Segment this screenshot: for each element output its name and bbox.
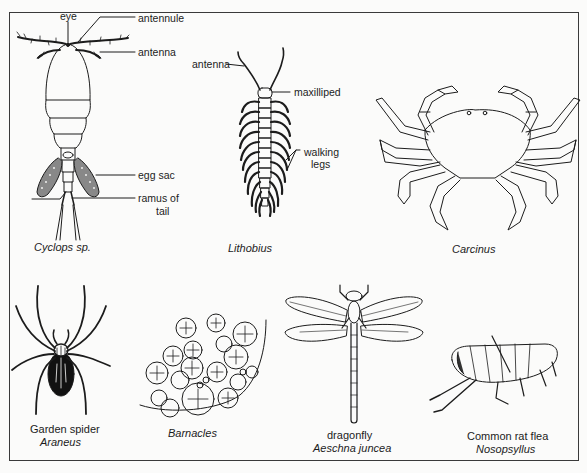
label-walking: walking	[304, 146, 339, 158]
label-eye: eye	[60, 10, 77, 22]
label-maxilliped: maxilliped	[294, 86, 341, 98]
caption-araneus: Araneus	[40, 436, 81, 449]
label-tail: tail	[156, 205, 169, 217]
label-antennule: antennule	[138, 12, 184, 24]
label-antenna: antenna	[138, 46, 176, 58]
caption-aeschna-juncea: Aeschna juncea	[313, 442, 391, 455]
lithobius-drawing	[226, 48, 300, 216]
cyclops-drawing	[17, 17, 135, 240]
illustration-canvas	[0, 0, 587, 473]
caption-barnacles: Barnacles	[168, 427, 217, 440]
caption-lithobius: Lithobius	[228, 242, 272, 255]
garden-spider-drawing	[12, 286, 110, 414]
dragonfly-drawing	[285, 285, 423, 423]
label-egg-sac: egg sac	[138, 169, 175, 181]
common-name-dragonfly: dragonfly	[327, 429, 372, 442]
caption-carcinus: Carcinus	[452, 243, 495, 256]
carcinus-drawing	[376, 86, 580, 230]
label-lithobius-antenna: antenna	[192, 58, 230, 70]
label-legs: legs	[311, 158, 330, 170]
rat-flea-drawing	[430, 336, 557, 412]
caption-nosopsyllus: Nosopsyllus	[476, 443, 535, 456]
barnacles-drawing	[140, 314, 266, 417]
common-name-rat-flea: Common rat flea	[467, 430, 548, 443]
caption-cyclops: Cyclops sp.	[34, 241, 91, 254]
label-ramus-of: ramus of	[138, 192, 179, 204]
common-name-garden-spider: Garden spider	[30, 423, 100, 436]
